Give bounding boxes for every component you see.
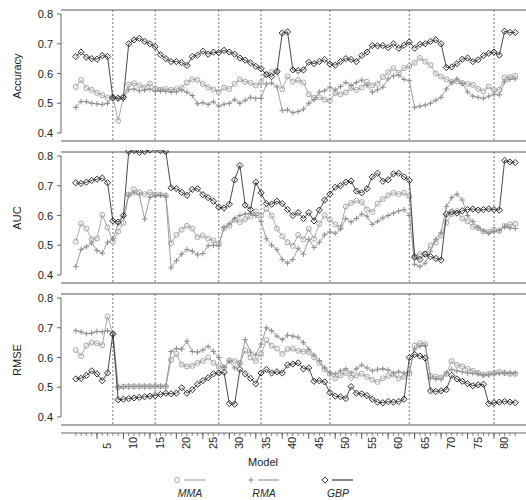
x-tick-label: 75 (472, 437, 484, 449)
x-tick-label: 65 (419, 437, 431, 449)
legend-label: MMA (178, 487, 203, 499)
legend-label: RMA (252, 487, 275, 499)
x-tick-label: 45 (313, 437, 325, 449)
x-tick-label: 5 (101, 443, 113, 449)
x-tick-label: 70 (445, 437, 457, 449)
series-rma (73, 325, 518, 390)
plot-rmse: 0.40.50.60.70.8 (0, 292, 526, 432)
legend-label: GBP (327, 487, 349, 499)
plot-accuracy: 0.40.50.60.70.8 (0, 8, 526, 148)
x-tick-label: 55 (366, 437, 378, 449)
x-axis-title: Model (0, 456, 526, 468)
y-tick-label: 0.4 (38, 127, 53, 139)
legend-item-gbp[interactable]: GBP (320, 474, 354, 499)
y-tick-label: 0.8 (38, 150, 53, 162)
y-tick-label: 0.7 (38, 180, 53, 192)
panel-auc: AUC 0.40.50.60.70.8 (0, 150, 526, 290)
y-axis-label-auc: AUC (11, 183, 23, 253)
y-tick-label: 0.6 (38, 210, 53, 222)
x-tick-label: 60 (392, 437, 404, 449)
x-tick-label: 50 (339, 437, 351, 449)
figure-root: Accuracy 0.40.50.60.70.8 AUC 0.40.50.60.… (0, 0, 526, 500)
y-tick-label: 0.6 (38, 352, 53, 364)
diamond-marker-icon (320, 474, 354, 486)
x-tick-label: 10 (127, 437, 139, 449)
x-tick-label: 25 (207, 437, 219, 449)
y-tick-label: 0.7 (38, 38, 53, 50)
y-axis-label-rmse: RMSE (11, 325, 23, 395)
y-tick-label: 0.4 (38, 411, 53, 423)
y-tick-label: 0.8 (38, 292, 53, 304)
y-tick-label: 0.6 (38, 68, 53, 80)
y-tick-label: 0.4 (38, 269, 53, 281)
legend-item-rma[interactable]: RMA (246, 474, 280, 499)
y-tick-label: 0.5 (38, 97, 53, 109)
y-tick-label: 0.8 (38, 8, 53, 20)
y-tick-label: 0.5 (38, 381, 53, 393)
legend-item-mma[interactable]: MMA (172, 474, 206, 499)
x-tick-label: 35 (260, 437, 272, 449)
y-tick-label: 0.7 (38, 322, 53, 334)
y-tick-label: 0.5 (38, 239, 53, 251)
plus-marker-icon (246, 474, 280, 486)
circle-marker-icon (172, 474, 206, 486)
x-tick-label: 40 (286, 437, 298, 449)
panel-accuracy: Accuracy 0.40.50.60.70.8 (0, 8, 526, 148)
y-axis-label-accuracy: Accuracy (11, 41, 23, 111)
series-rma (73, 190, 518, 271)
x-tick-label: 80 (498, 437, 510, 449)
x-tick-label: 20 (180, 437, 192, 449)
x-tick-label: 30 (233, 437, 245, 449)
plot-auc: 0.40.50.60.70.8 (0, 150, 526, 290)
panel-rmse: RMSE 0.40.50.60.70.8 (0, 292, 526, 432)
legend: MMARMAGBP (0, 474, 526, 499)
x-tick-label: 15 (154, 437, 166, 449)
